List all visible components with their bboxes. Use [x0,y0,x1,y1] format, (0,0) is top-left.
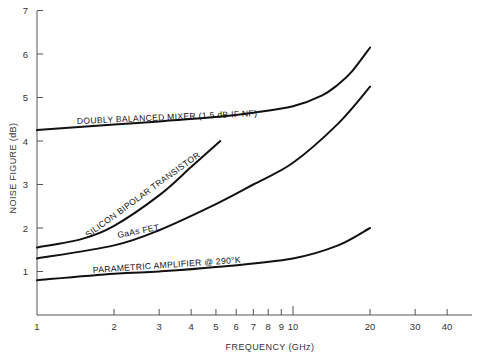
y-tick-label: 7 [23,5,28,16]
y-tick-label: 2 [23,223,28,234]
curves [37,48,370,281]
x-tick-label: 2 [111,321,116,332]
x-ticks: 12345678910203040 [34,306,452,332]
x-tick-label: 1 [34,321,39,332]
x-tick-label: 3 [156,321,161,332]
y-tick-label: 1 [23,266,28,277]
x-tick-label: 8 [266,321,271,332]
y-tick-label: 4 [23,136,28,147]
x-tick-label: 9 [279,321,284,332]
x-tick-label: 5 [213,321,218,332]
y-tick-label: 5 [23,92,28,103]
mixer-label: DOUBLY BALANCED MIXER (1.5 dB IF NF) [77,108,258,126]
y-tick-label: 6 [23,49,28,60]
x-tick-label: 40 [442,321,453,332]
y-axis-title: NOISE FIGURE (dB) [8,123,18,214]
x-tick-label: 10 [288,321,299,332]
noise-figure-chart: 1234567 12345678910203040 FREQUENCY (GHz… [0,0,481,364]
x-tick-label: 20 [365,321,376,332]
y-ticks: 1234567 [23,5,43,277]
x-tick-label: 6 [234,321,239,332]
x-tick-label: 4 [188,321,193,332]
y-tick-label: 3 [23,179,28,190]
x-tick-label: 7 [251,321,256,332]
x-tick-label: 30 [410,321,421,332]
x-axis-title: FREQUENCY (GHz) [226,342,315,352]
